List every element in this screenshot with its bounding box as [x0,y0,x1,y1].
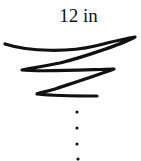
spiral-diagram [0,0,141,161]
dotted-line [75,110,79,160]
spiral-stroke [5,37,135,96]
